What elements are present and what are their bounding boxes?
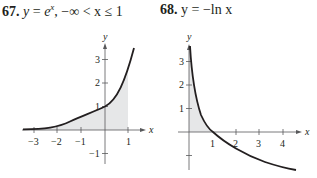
x-tick-4-68: 4 bbox=[280, 138, 285, 149]
y-tick-3-68: 3 bbox=[179, 56, 184, 67]
shaded-area-68 bbox=[189, 46, 213, 132]
curve-neg-ln bbox=[190, 46, 296, 170]
x-axis-label-68: x bbox=[304, 126, 310, 137]
chart-68: x y 1 2 3 4 1 2 3 bbox=[0, 0, 317, 178]
y-tick-1-68: 1 bbox=[179, 103, 184, 114]
x-axis-arrow-68 bbox=[296, 130, 302, 134]
x-tick-3-68: 3 bbox=[256, 138, 261, 149]
y-tick-2-68: 2 bbox=[179, 79, 184, 90]
y-axis-label-68: y bbox=[186, 31, 192, 42]
x-tick-1-68: 1 bbox=[210, 138, 215, 149]
